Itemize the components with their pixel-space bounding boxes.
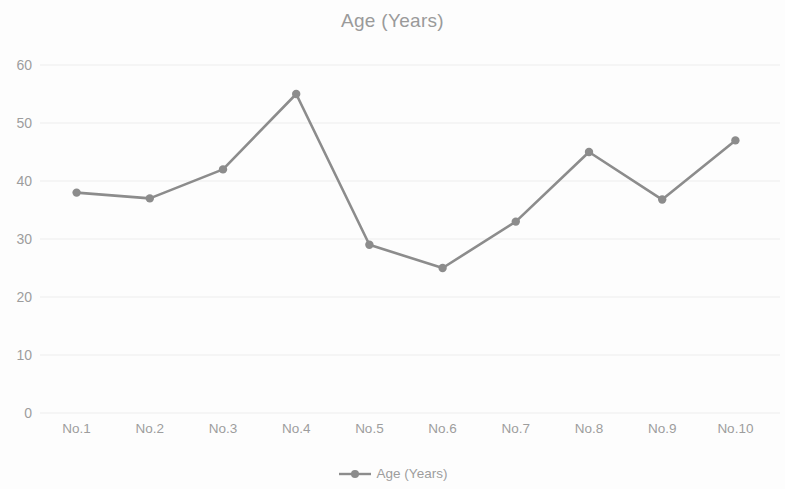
gridlines (40, 65, 780, 413)
y-axis-tick-label: 10 (0, 347, 32, 363)
y-axis-tick-label: 50 (0, 115, 32, 131)
x-axis-tick-label: No.9 (627, 421, 697, 436)
data-point-marker[interactable] (731, 136, 739, 144)
x-axis-tick-label: No.5 (334, 421, 404, 436)
y-axis-tick-label: 60 (0, 57, 32, 73)
y-axis-tick-label: 30 (0, 231, 32, 247)
plot-area: 0102030405060 No.1No.2No.3No.4No.5No.6No… (0, 0, 785, 489)
x-axis-tick-label: No.2 (115, 421, 185, 436)
x-axis-tick-label: No.8 (554, 421, 624, 436)
y-axis-tick-label: 20 (0, 289, 32, 305)
line-marker-icon (338, 468, 372, 480)
y-axis-tick-label: 40 (0, 173, 32, 189)
x-axis-tick-label: No.6 (408, 421, 478, 436)
data-point-marker[interactable] (219, 165, 227, 173)
data-point-marker[interactable] (365, 241, 373, 249)
line-chart: Age (Years) 0102030405060 No.1No.2No.3No… (0, 0, 785, 489)
legend-label: Age (Years) (377, 466, 448, 481)
data-point-marker[interactable] (72, 188, 80, 196)
data-point-marker[interactable] (292, 90, 300, 98)
x-axis-tick-label: No.1 (42, 421, 112, 436)
chart-canvas (0, 0, 785, 489)
data-point-marker[interactable] (512, 217, 520, 225)
x-axis-tick-label: No.7 (481, 421, 551, 436)
data-point-marker[interactable] (438, 264, 446, 272)
x-axis-tick-label: No.10 (700, 421, 770, 436)
y-axis-tick-label: 0 (0, 405, 32, 421)
data-point-marker[interactable] (146, 194, 154, 202)
x-axis-tick-label: No.3 (188, 421, 258, 436)
data-point-marker[interactable] (658, 195, 666, 203)
data-point-marker[interactable] (585, 148, 593, 156)
x-axis-tick-label: No.4 (261, 421, 331, 436)
chart-legend: Age (Years) (0, 466, 785, 481)
